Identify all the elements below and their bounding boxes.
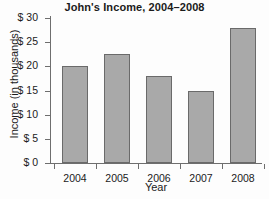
y-axis-tick: $ 15	[45, 91, 50, 92]
x-axis-tick	[54, 164, 55, 169]
y-axis-tick: $ 0	[45, 163, 50, 164]
x-axis-tick	[222, 164, 223, 169]
y-axis-tick: $ 5	[45, 139, 50, 140]
y-axis-tick-label: $ 10	[18, 108, 38, 120]
bar	[62, 66, 88, 163]
y-axis-tick: $ 30	[45, 18, 50, 19]
y-axis-tick-label: $ 25	[18, 35, 38, 47]
y-axis-tick-label: $ 5	[23, 132, 38, 144]
bar-chart: John's Income, 2004–2008 Income (in thou…	[0, 0, 269, 199]
y-axis-tick: $ 10	[45, 115, 50, 116]
x-axis-title: Year	[50, 181, 262, 193]
y-axis-line	[50, 16, 51, 164]
bar	[188, 91, 214, 164]
bar	[104, 54, 130, 163]
chart-title: John's Income, 2004–2008	[0, 1, 269, 13]
x-axis-tick	[138, 164, 139, 169]
x-axis-tick	[96, 164, 97, 169]
x-axis-line	[50, 163, 262, 164]
y-axis-tick-label: $ 20	[18, 59, 38, 71]
y-axis-tick-label: $ 15	[18, 84, 38, 96]
plot-area: $ 0$ 5$ 10$ 15$ 20$ 25$ 30 2004200520062…	[50, 14, 262, 166]
bar	[230, 28, 256, 163]
y-axis-tick-label: $ 30	[18, 11, 38, 23]
y-axis-tick: $ 25	[45, 42, 50, 43]
y-axis-tick: $ 20	[45, 66, 50, 67]
x-axis-tick	[180, 164, 181, 169]
bar	[146, 76, 172, 163]
x-axis-tick	[264, 164, 265, 169]
y-axis-tick-label: $ 0	[23, 156, 38, 168]
